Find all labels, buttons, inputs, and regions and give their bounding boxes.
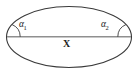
angle-label-alpha-2: α2	[101, 20, 109, 31]
angle-right-subscript: 2	[106, 24, 109, 31]
angle-label-alpha-1: α1	[19, 20, 27, 31]
angle-left-subscript: 1	[24, 24, 27, 31]
angle-arc-right	[118, 25, 126, 37]
chord-label-x: X	[63, 39, 70, 49]
ellipse-angle-diagram: α1 α2 X	[0, 0, 139, 75]
